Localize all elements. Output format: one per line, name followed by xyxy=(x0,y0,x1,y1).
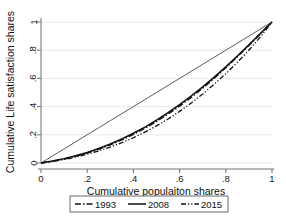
chart-canvas: 0 .2 .4 .6 .8 1 0 .2 .4 .6 .8 1 Cumulati… xyxy=(0,0,286,218)
x-axis-tick-labels: 0 .2 .4 .6 .8 1 xyxy=(38,173,274,184)
ytick-label-02: .2 xyxy=(28,131,39,139)
axes xyxy=(38,18,274,169)
legend-label-2008[interactable]: 2008 xyxy=(148,199,169,210)
ytick-label-0: 0 xyxy=(28,160,39,165)
xtick-label-0: 0 xyxy=(38,173,43,184)
lorenz-curve-figure: 0 .2 .4 .6 .8 1 0 .2 .4 .6 .8 1 Cumulati… xyxy=(0,0,286,218)
data-series-group xyxy=(41,22,272,163)
legend-label-1993[interactable]: 1993 xyxy=(95,199,116,210)
ytick-label-06: .6 xyxy=(28,74,39,82)
y-axis-tick-labels: 0 .2 .4 .6 .8 1 xyxy=(28,19,39,165)
x-axis-ticks xyxy=(41,169,272,173)
legend-label-2015[interactable]: 2015 xyxy=(201,199,222,210)
ytick-label-08: .8 xyxy=(28,46,39,54)
xtick-label-08: .8 xyxy=(222,173,230,184)
ytick-label-04: .4 xyxy=(28,103,39,111)
y-axis-ticks xyxy=(37,22,41,163)
xtick-label-1: 1 xyxy=(269,173,274,184)
xtick-label-02: .2 xyxy=(83,173,91,184)
series-line-equality-line xyxy=(41,22,272,163)
xtick-label-06: .6 xyxy=(176,173,184,184)
y-axis-title: Cumulative Life satisfaction shares xyxy=(4,11,16,173)
x-axis-title: Cumulative populaiton shares xyxy=(87,185,225,197)
legend[interactable]: 1993 2008 2015 xyxy=(70,196,228,212)
xtick-label-04: .4 xyxy=(129,173,137,184)
ytick-label-1: 1 xyxy=(28,19,39,24)
